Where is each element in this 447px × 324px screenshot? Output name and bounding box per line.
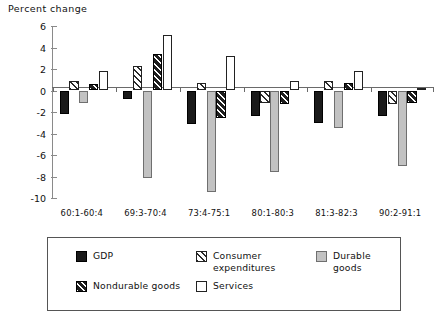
bar-ce-0 xyxy=(69,81,78,91)
legend-swatch-consumer-expenditures xyxy=(196,251,207,262)
plot-area xyxy=(52,26,434,198)
legend-item-consumer-expenditures[interactable]: Consumer expenditures xyxy=(196,250,308,273)
bar-ce-2 xyxy=(197,83,206,91)
bar-nd-1 xyxy=(153,54,162,91)
x-axis-tick-label: 81:3-82:3 xyxy=(315,208,357,218)
x-axis-tick-label: 80:1-80:3 xyxy=(252,208,294,218)
chart-title: Percent change xyxy=(8,3,87,14)
bar-svc-5 xyxy=(417,88,426,90)
y-axis-tick xyxy=(51,134,57,135)
x-axis-tick xyxy=(371,87,372,92)
y-axis-tick-label: 4 xyxy=(40,42,46,53)
legend-swatch-durable-goods xyxy=(316,251,327,262)
legend-label-nondurable-goods: Nondurable goods xyxy=(93,280,180,292)
bar-dur-3 xyxy=(270,91,279,173)
x-axis-tick xyxy=(116,87,117,92)
y-axis-tick-label: 0 xyxy=(40,85,46,96)
x-axis-tick xyxy=(244,87,245,92)
x-axis-tick-label: 60:1-60:4 xyxy=(61,208,103,218)
legend-swatch-gdp xyxy=(76,251,87,262)
y-axis-tick xyxy=(51,112,57,113)
chart-legend: GDPConsumer expendituresDurable goodsNon… xyxy=(47,237,401,311)
legend-item-durable-goods[interactable]: Durable goods xyxy=(316,250,400,273)
bar-ce-5 xyxy=(388,91,397,105)
y-axis-tick-label: -10 xyxy=(30,193,46,204)
bar-nd-3 xyxy=(280,91,289,105)
bar-svc-4 xyxy=(354,71,363,90)
bar-nd-2 xyxy=(216,91,225,119)
legend-label-durable-goods: Durable goods xyxy=(333,250,400,273)
bar-ce-4 xyxy=(324,81,333,91)
legend-item-services[interactable]: Services xyxy=(196,280,253,292)
y-axis-tick xyxy=(51,177,57,178)
bar-dur-4 xyxy=(334,91,343,129)
y-axis-tick xyxy=(51,198,57,199)
bar-dur-0 xyxy=(79,91,88,104)
x-axis-tick-label: 73:4-75:1 xyxy=(188,208,230,218)
legend-label-gdp: GDP xyxy=(93,250,113,262)
legend-item-nondurable-goods[interactable]: Nondurable goods xyxy=(76,280,180,292)
bar-dur-5 xyxy=(398,91,407,166)
y-axis-tick-label: -8 xyxy=(37,171,46,182)
y-axis-tick xyxy=(51,26,57,27)
x-axis-tick-end xyxy=(433,87,434,92)
x-axis-tick xyxy=(180,87,181,92)
y-axis-tick-label: -4 xyxy=(37,128,46,139)
bar-gdp-3 xyxy=(251,91,260,117)
bar-dur-2 xyxy=(207,91,216,192)
bar-nd-4 xyxy=(344,83,353,91)
legend-label-consumer-expenditures: Consumer expenditures xyxy=(213,250,308,273)
legend-swatch-nondurable-goods xyxy=(76,281,87,292)
y-axis-labels: 6420-2-4-6-8-10 xyxy=(0,26,46,198)
bar-svc-0 xyxy=(99,71,108,90)
legend-label-services: Services xyxy=(213,280,253,292)
bar-gdp-2 xyxy=(187,91,196,124)
legend-item-gdp[interactable]: GDP xyxy=(76,250,113,262)
bar-nd-0 xyxy=(89,84,98,90)
x-axis-tick-label: 90:2-91:1 xyxy=(379,208,421,218)
bar-nd-5 xyxy=(407,91,416,104)
bar-ce-3 xyxy=(260,91,269,104)
bar-dur-1 xyxy=(143,91,152,178)
y-axis-tick-label: -6 xyxy=(37,150,46,161)
y-axis-tick xyxy=(51,69,57,70)
y-axis-tick-label: -2 xyxy=(37,107,46,118)
bar-gdp-1 xyxy=(123,91,132,100)
x-axis-tick xyxy=(307,87,308,92)
bar-gdp-4 xyxy=(314,91,323,123)
x-axis-tick xyxy=(53,87,54,92)
y-axis-tick xyxy=(51,48,57,49)
x-axis-tick-label: 69:3-70:4 xyxy=(124,208,166,218)
bar-ce-1 xyxy=(133,66,142,91)
bar-gdp-0 xyxy=(60,91,69,115)
y-axis-tick xyxy=(51,155,57,156)
bar-svc-2 xyxy=(226,56,235,90)
y-axis-tick-label: 6 xyxy=(40,21,46,32)
legend-swatch-services xyxy=(196,281,207,292)
bar-svc-3 xyxy=(290,81,299,91)
bar-svc-1 xyxy=(163,35,172,91)
y-axis-tick-label: 2 xyxy=(40,64,46,75)
chart-canvas: Percent change 6420-2-4-6-8-10 60:1-60:4… xyxy=(0,0,447,324)
bar-gdp-5 xyxy=(378,91,387,117)
